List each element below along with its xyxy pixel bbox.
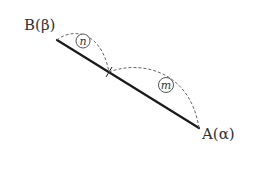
diagram-canvas: n m B(β) A(α) [0,0,257,175]
point-b-label: B(β) [24,16,55,34]
ratio-m-text: m [161,79,171,92]
point-a-label: A(α) [201,125,235,143]
segment-ba [57,40,199,128]
ratio-n-text: n [79,35,86,48]
ratio-label-n: n [76,34,90,48]
ratio-label-m: m [159,78,174,93]
